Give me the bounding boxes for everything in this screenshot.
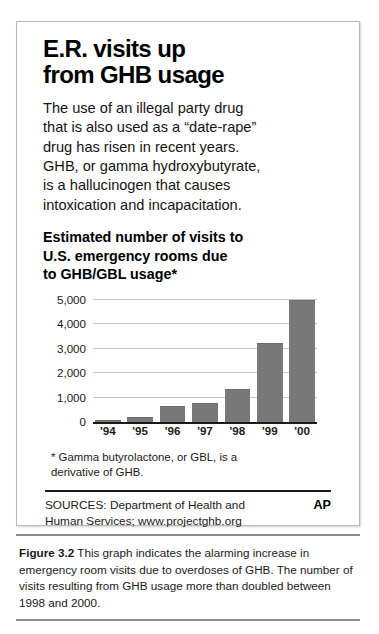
chart-x-tick-label: '00 (289, 424, 315, 437)
chart-x-tick-label: '95 (127, 424, 153, 437)
chart-bar (95, 420, 121, 422)
chart-y-tick-label: 3,000 (57, 341, 86, 354)
chart-x-tick-label: '98 (225, 424, 251, 437)
lede-line-2: that is also used as a “date-rape” (43, 118, 333, 137)
footnote-line-1: * Gamma butyrolactone, or GBL, is a (51, 450, 333, 465)
chart-bar-column (192, 300, 218, 422)
chart-bar (127, 417, 153, 422)
sources-line-1: SOURCES: Department of Health and (45, 498, 245, 513)
figure-caption: Figure 3.2 This graph indicates the alar… (16, 545, 360, 611)
infographic-content: E.R. visits up from GHB usage The use of… (17, 22, 359, 529)
chart-x-tick-label: '99 (257, 424, 283, 437)
chart-y-tick-label: 4,000 (57, 317, 86, 330)
lede-line-3: drug has risen in recent years. (43, 138, 333, 157)
page-root: E.R. visits up from GHB usage The use of… (0, 0, 379, 634)
lede-line-6: intoxication and incapacitation. (43, 196, 333, 215)
chart-bars (95, 300, 315, 422)
sources-text: SOURCES: Department of Health and Human … (45, 498, 245, 529)
chart-y-tick-label: 0 (80, 414, 86, 427)
chart-bar-column (95, 300, 121, 422)
lede-line-4: GHB, or gamma hydroxybutyrate, (43, 157, 333, 176)
caption-rule-top (16, 534, 360, 536)
sources-block: SOURCES: Department of Health and Human … (45, 498, 331, 529)
chart-bar-column (289, 300, 315, 422)
sources-divider (45, 490, 331, 492)
chart-bar (225, 389, 251, 422)
chart-x-tick-label: '97 (192, 424, 218, 437)
chart-bar (192, 403, 218, 422)
infographic-card: E.R. visits up from GHB usage The use of… (16, 21, 360, 526)
chart-title-line-2: U.S. emergency rooms due (43, 247, 333, 266)
chart-x-tick-label: '94 (95, 424, 121, 437)
chart-title-line-3: to GHB/GBL usage* (43, 265, 333, 284)
chart-bar (257, 343, 283, 422)
chart-bar-column (225, 300, 251, 422)
chart-title: Estimated number of visits to U.S. emerg… (43, 228, 333, 284)
headline: E.R. visits up from GHB usage (43, 36, 333, 88)
chart-y-tick-label: 5,000 (57, 292, 86, 305)
chart-bar (160, 406, 186, 422)
lede-paragraph: The use of an illegal party drug that is… (43, 99, 333, 215)
chart-x-axis: '94'95'96'97'98'99'00 (95, 424, 315, 437)
lede-line-5: is a hallucinogen that causes (43, 176, 333, 195)
chart-x-tick-label: '96 (160, 424, 186, 437)
chart-footnote: * Gamma butyrolactone, or GBL, is a deri… (51, 450, 333, 479)
headline-line-2: from GHB usage (43, 62, 333, 88)
lede-line-1: The use of an illegal party drug (43, 99, 333, 118)
footnote-line-2: derivative of GHB. (51, 465, 333, 480)
chart-bar-column (160, 300, 186, 422)
chart-y-tick-label: 2,000 (57, 366, 86, 379)
bar-chart: 01,0002,0003,0004,0005,000 '94'95'96'97'… (47, 294, 325, 446)
chart-bar-column (127, 300, 153, 422)
chart-title-line-1: Estimated number of visits to (43, 228, 333, 247)
sources-line-2: Human Services; www.projectghb.org (45, 514, 245, 529)
figure-caption-block: Figure 3.2 This graph indicates the alar… (16, 534, 360, 621)
chart-bar (289, 300, 315, 422)
headline-line-1: E.R. visits up (43, 36, 333, 62)
chart-y-tick-label: 1,000 (57, 390, 86, 403)
chart-plot-area: 01,0002,0003,0004,0005,000 (93, 300, 317, 424)
figure-label: Figure 3.2 (19, 546, 74, 559)
chart-bar-column (257, 300, 283, 422)
caption-rule-bottom (16, 619, 360, 621)
ap-credit: AP (308, 498, 332, 512)
